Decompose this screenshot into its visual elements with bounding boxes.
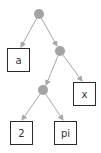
edge-n2-to-pi — [43, 90, 63, 120]
edge-n2-to-2 — [22, 90, 43, 120]
internal-node-n2 — [38, 85, 48, 95]
edge-n1-to-x — [60, 51, 82, 81]
edge-root-to-a — [21, 14, 39, 47]
leaf-node-pi: pi — [55, 122, 77, 145]
edges — [21, 14, 82, 120]
leaf-node-2: 2 — [11, 122, 33, 145]
expression-tree-diagram: a x 2 pi — [0, 0, 101, 153]
leaf-node-a: a — [8, 49, 30, 72]
leaf-label-2: 2 — [18, 128, 24, 139]
leaf-label-x: x — [82, 89, 88, 100]
internal-node-root — [34, 9, 44, 19]
edge-root-to-n1 — [39, 14, 57, 46]
leaf-label-a: a — [15, 55, 21, 66]
leaf-node-x: x — [74, 83, 96, 106]
internal-node-n1 — [55, 46, 65, 56]
edge-n1-to-n2 — [46, 51, 60, 85]
leaf-label-pi: pi — [61, 128, 70, 139]
